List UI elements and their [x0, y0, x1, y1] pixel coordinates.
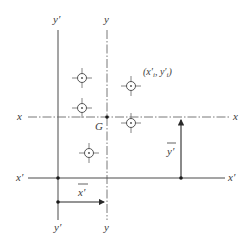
y-bar-label: y′ [166, 145, 175, 157]
particle [121, 113, 141, 133]
particle [121, 76, 141, 96]
x-label-left: x [16, 110, 22, 122]
x-prime-label-right: x′ [227, 171, 236, 183]
x-bar-dimension: x′ [56, 184, 104, 204]
y-prime-axis: y′ y′ [52, 13, 62, 233]
particle [79, 143, 99, 163]
particle [72, 98, 92, 118]
origin-point [56, 176, 60, 180]
centroid-point [105, 115, 109, 119]
centroid-label: G [95, 120, 103, 132]
x-prime-label-left: x′ [15, 171, 24, 183]
x-label-right: x [232, 110, 238, 122]
particle-coordinate-label: (x′i, y′i) [143, 66, 173, 79]
particle [72, 68, 92, 88]
y-prime-label-bottom: y′ [53, 221, 62, 233]
y-centroid-axis: y y [103, 13, 109, 233]
y-prime-label-top: y′ [52, 13, 61, 25]
y-bar-dimension: y′ [166, 120, 183, 180]
y-label-top: y [103, 13, 109, 25]
y-label-bottom: y [103, 221, 109, 233]
x-prime-axis: x′ x′ [15, 171, 236, 183]
x-bar-label: x′ [77, 186, 86, 198]
centroid-axes-diagram: y′ y′ y y x x x′ x′ G [0, 0, 239, 243]
